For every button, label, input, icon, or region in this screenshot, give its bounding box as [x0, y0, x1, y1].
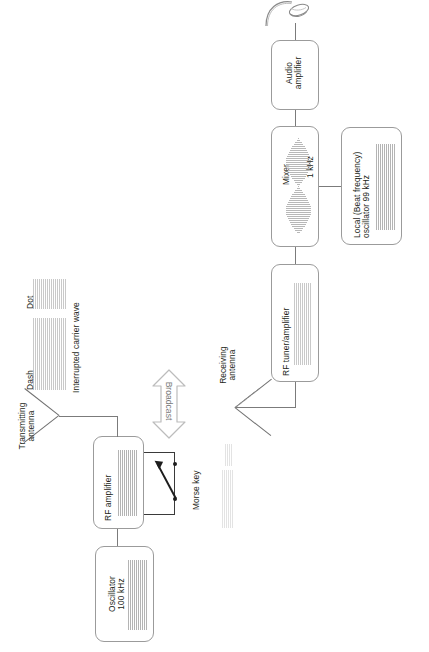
morse-key-lever-tip	[155, 457, 166, 469]
block-oscillator-label: Oscillator 100 kHz	[108, 552, 127, 636]
receiving-antenna-label: Receiving antenna	[219, 330, 238, 400]
dash-label: Dash	[26, 370, 35, 390]
block-audio-amplifier-label: Audio amplifier	[285, 42, 304, 104]
block-rf-amplifier-label: RF amplifier	[104, 475, 113, 521]
transmitting-antenna-label: Transmitting antenna	[18, 390, 37, 462]
headphones-icon	[258, 0, 318, 30]
interrupted-carrier-wave-label: Interrupted carrier wave	[72, 302, 81, 393]
diagram-canvas: Audio amplifier Mixer 1 kHz Local (Beat …	[0, 0, 429, 652]
connector-rftuner-elbow	[295, 382, 296, 407]
transmitting-antenna-icon	[59, 416, 60, 417]
waveform-received-dot	[225, 444, 232, 466]
receiving-antenna-icon	[235, 407, 236, 408]
connector-elbow-transmitting-antenna	[59, 416, 118, 417]
waveform-rf-amplifier-carrier	[118, 450, 138, 516]
connector-oscillator-rfamp	[117, 529, 118, 546]
connector-rfamp-elbow	[117, 416, 118, 437]
broadcast-arrow-icon: Broadcast	[141, 368, 197, 440]
broadcast-label: Broadcast	[164, 367, 174, 435]
connector-mixer-rftuner	[295, 247, 296, 264]
waveform-received-dash	[222, 470, 233, 528]
waveform-local-oscillator	[376, 144, 396, 230]
block-local-oscillator-label: Local (Beat frequency) oscillator 99 kHz	[353, 152, 372, 238]
waveform-beat-envelope	[286, 138, 311, 234]
morse-key-contact-upper	[173, 462, 177, 466]
waveform-dot	[33, 279, 67, 309]
connector-localosc-mixer	[319, 186, 341, 187]
waveform-dash	[33, 318, 67, 390]
connector-elbow-receiving-antenna	[235, 407, 296, 408]
morse-key-label: Morse key	[192, 470, 201, 510]
connector-headphones-audioamp	[295, 23, 296, 40]
morse-key-switch[interactable]	[152, 448, 188, 520]
block-rf-tuner-amplifier-label: RF tuner/amplifier	[282, 308, 291, 376]
dot-label: Dot	[26, 296, 35, 309]
waveform-received-carrier	[294, 283, 312, 365]
waveform-oscillator-carrier	[128, 560, 148, 630]
connector-audioamp-mixer	[295, 110, 296, 126]
